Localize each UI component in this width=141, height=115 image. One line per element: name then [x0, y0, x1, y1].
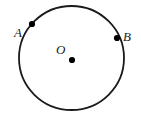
point-a-dot — [29, 21, 35, 27]
point-a-label: A — [14, 26, 22, 39]
geometry-figure: A B O — [0, 0, 141, 115]
point-b-dot — [114, 35, 120, 41]
circle-diagram-canvas — [0, 0, 141, 115]
center-point-dot — [69, 57, 75, 63]
point-b-label: B — [123, 30, 131, 43]
center-point-label: O — [56, 43, 65, 56]
